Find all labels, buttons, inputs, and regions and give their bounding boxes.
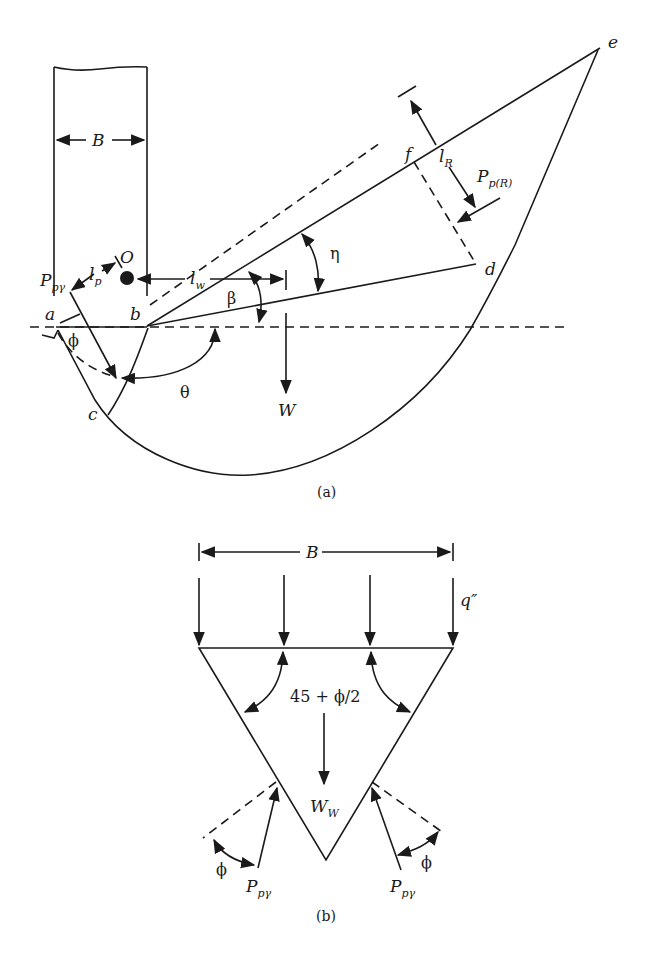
label-q: q″ xyxy=(460,590,478,610)
phi-arc-right xyxy=(398,832,438,855)
label-eta: η xyxy=(330,244,340,263)
line-be xyxy=(147,48,600,326)
label-d: d xyxy=(485,259,496,279)
wedge-triangle xyxy=(199,648,453,860)
theta-arc xyxy=(122,329,215,378)
caption-b: (b) xyxy=(316,908,336,924)
label-phi-left: ϕ xyxy=(216,860,227,879)
caption-a: (a) xyxy=(317,484,336,500)
label-b-point: b xyxy=(130,304,141,324)
dashed-normal-left xyxy=(203,782,276,838)
label-theta: θ xyxy=(180,383,190,402)
passive-force-r-arrow xyxy=(458,198,500,222)
label-phi-right: ϕ xyxy=(421,853,432,872)
passive-force-left-arrow xyxy=(258,788,277,868)
phi-arc xyxy=(60,314,80,323)
label-c: c xyxy=(88,404,98,424)
label-wedge-angle: 45 + ϕ/2 xyxy=(290,687,360,706)
label-lp: lp xyxy=(89,264,101,288)
label-lr: lR xyxy=(439,146,453,170)
lever-arm-lw: lw xyxy=(138,268,286,292)
panel-b: B q″ 45 + ϕ/2 WW ϕ Ppγ ϕ Ppγ (b) xyxy=(199,542,478,924)
angle-arc-right xyxy=(371,652,410,712)
label-a: a xyxy=(45,304,55,324)
panel-a: B e d a b c O lp Ppγ xyxy=(30,32,618,500)
dashed-extension xyxy=(150,143,380,305)
angle-arc-left xyxy=(245,652,283,712)
label-e: e xyxy=(608,32,618,52)
label-ppy: Ppγ xyxy=(39,270,65,294)
footing-width-dimension: B xyxy=(57,130,144,150)
line-bc xyxy=(108,328,148,415)
label-beta: β xyxy=(227,289,236,308)
label-lw: lw xyxy=(190,268,205,292)
label-phi: ϕ xyxy=(68,331,79,350)
label-o: O xyxy=(120,247,134,267)
figure-canvas: B e d a b c O lp Ppγ xyxy=(0,0,657,966)
label-f: f xyxy=(403,144,414,164)
surcharge-arrows xyxy=(199,575,453,645)
dashed-normal-right xyxy=(372,782,445,834)
eta-arc xyxy=(302,234,318,291)
label-ppy-left: Ppγ xyxy=(245,876,271,900)
label-ww: WW xyxy=(310,796,340,820)
center-point-o xyxy=(120,271,134,285)
label-ppr: Pp(R) xyxy=(476,166,512,190)
label-b: B xyxy=(91,130,105,150)
dashed-arc-ac xyxy=(58,333,116,377)
phi-tick xyxy=(42,330,58,338)
label-ppy-right: Ppγ xyxy=(389,876,415,900)
label-w: W xyxy=(278,400,297,420)
lever-arm-lp: lp xyxy=(72,256,122,290)
label-b-wedge: B xyxy=(305,542,319,562)
failure-surface xyxy=(58,50,598,475)
dashed-fd xyxy=(414,162,476,264)
wedge-width-dimension: B xyxy=(199,542,453,562)
